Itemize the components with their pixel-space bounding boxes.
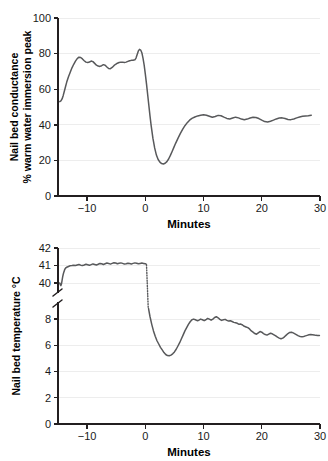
y-ticklabel: 20	[39, 154, 51, 166]
x-axis-title: Minutes	[167, 446, 210, 458]
y-tick-group: 02468404142	[39, 242, 58, 430]
x-ticklabel: 20	[256, 202, 268, 214]
x-ticklabel: 10	[197, 430, 209, 442]
data-line-temperature-transition	[147, 265, 149, 308]
data-line-temperature-warm	[60, 263, 146, 286]
x-ticklabel: 0	[142, 430, 148, 442]
y-ticklabel: 40	[39, 119, 51, 131]
y-ticklabel: 4	[45, 365, 51, 377]
y-ticklabel: 40	[39, 277, 51, 289]
y-axis-title: Nail bed conductance% warm water immersi…	[8, 30, 33, 183]
axes	[58, 18, 320, 196]
y-ticklabel: 41	[39, 259, 51, 271]
data-line-temperature-cold	[149, 309, 320, 356]
x-tick-group: −100102030	[78, 424, 326, 442]
y-ticklabel: 42	[39, 242, 51, 254]
chart-panel-conductance: 020406080100−100102030MinutesNail bed co…	[0, 0, 328, 230]
y-ticklabel: 2	[45, 392, 51, 404]
chart-panel-temperature: 02468404142−100102030MinutesNail bed tem…	[0, 230, 328, 461]
x-tick-group: −100102030	[78, 196, 326, 214]
y-ticklabel: 8	[45, 313, 51, 325]
y-ticklabel: 0	[45, 190, 51, 202]
y-tick-group: 020406080100	[33, 12, 58, 202]
x-ticklabel: −10	[78, 202, 97, 214]
data-line-conductance	[60, 49, 312, 164]
figure-container: 020406080100−100102030MinutesNail bed co…	[0, 0, 328, 461]
y-axis-title-line2: % warm water immersion peak	[21, 30, 33, 183]
x-ticklabel: 30	[314, 430, 326, 442]
x-ticklabel: 20	[256, 430, 268, 442]
x-ticklabel: 10	[197, 202, 209, 214]
y-ticklabel: 6	[45, 339, 51, 351]
conductance-chart-svg: 020406080100−100102030MinutesNail bed co…	[0, 0, 328, 230]
x-ticklabel: −10	[78, 430, 97, 442]
x-axis-title: Minutes	[167, 218, 210, 230]
x-ticklabel: 30	[314, 202, 326, 214]
y-ticklabel: 60	[39, 83, 51, 95]
y-ticklabel: 100	[33, 12, 51, 24]
y-axis-title-line1: Nail bed conductance	[8, 53, 20, 162]
temperature-chart-svg: 02468404142−100102030MinutesNail bed tem…	[0, 230, 328, 461]
y-axis-title: Nail bed temperature °C	[10, 276, 22, 396]
axis-break-marks	[53, 289, 62, 307]
x-ticklabel: 0	[142, 202, 148, 214]
gridlines	[58, 18, 320, 160]
y-ticklabel: 0	[45, 418, 51, 430]
y-ticklabel: 80	[39, 47, 51, 59]
